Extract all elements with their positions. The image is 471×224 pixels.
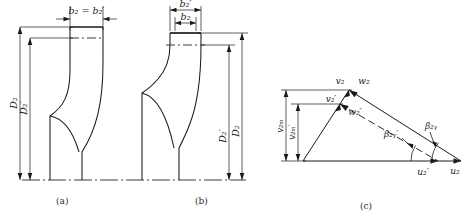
label-b2prime-b: b₂′: [179, 0, 192, 9]
arrowhead-D2p-bottom-a: [28, 173, 33, 180]
panel-c: β₂ᵧ β₂ᵧ′ v₂ₘ v₂ₘ′ v₂ w₂ v₂′ w₂′ u₂′ u₂: [278, 60, 471, 190]
arrowhead-b2-left-a: [64, 17, 71, 22]
caption-b: (b): [195, 196, 208, 206]
label-D2-b: D₂: [230, 125, 241, 138]
arrowhead-b2p-left-b: [170, 8, 177, 13]
arrowhead-D2p-top-b: [227, 45, 232, 52]
front-shroud-a: [82, 27, 103, 180]
label-b2-b: b₂: [181, 11, 191, 22]
arrowhead-D2p-bottom-b: [227, 173, 232, 180]
label-v2prime-c: v₂′: [326, 94, 337, 104]
arrowhead-D2-bottom-b: [240, 173, 245, 180]
front-shroud-b: [179, 33, 201, 180]
arrowhead-D2-top-b: [240, 33, 245, 40]
vane-curve-b: [142, 93, 174, 148]
arrowhead-b2-right-a: [103, 17, 110, 22]
label-b2-equals-b2prime: b₂ = b₂′: [69, 5, 106, 16]
w2-vector-c: [349, 90, 461, 161]
arrowhead-D2p-top-a: [28, 38, 33, 45]
arrowhead-D2-top-a: [18, 27, 23, 34]
arrowhead-v2mp-top-c: [296, 104, 301, 111]
caption-a: (a): [56, 196, 68, 206]
rear-shroud-b: [142, 33, 170, 180]
label-w2-c: w₂: [358, 76, 370, 86]
label-v2mprime-c: v₂ₘ′: [287, 124, 297, 139]
label-beta2y-c: β₂ᵧ: [424, 121, 438, 131]
label-D2prime-b: D₂′: [217, 128, 228, 143]
label-v2m-c: v₂ₘ: [278, 119, 285, 132]
arrowhead-D2-bottom-a: [18, 173, 23, 180]
vane-curve-a: [50, 116, 79, 152]
panel-a: b₂ = b₂′ D₂ D₂′: [0, 0, 140, 200]
arrowhead-v2prime-c: [335, 104, 341, 112]
arrowhead-u2prime-c: [431, 158, 439, 163]
label-v2-c: v₂: [336, 76, 345, 86]
panel-b: b₂′ b₂ D₂ D₂′: [138, 0, 288, 200]
arrowhead-b2p-right-b: [195, 8, 202, 13]
arrowhead-v2m-bottom-c: [284, 154, 289, 161]
arrowhead-v2-c: [344, 90, 350, 98]
arrowhead-v2mp-bottom-c: [296, 154, 301, 161]
label-u2prime-c: u₂′: [417, 167, 428, 177]
caption-c: (c): [360, 201, 372, 211]
arrowhead-b2-right-b: [190, 21, 196, 25]
label-u2-c: u₂: [450, 166, 460, 176]
label-beta2yprime-c: β₂ᵧ′: [383, 129, 398, 139]
label-D2prime-a: D₂′: [18, 100, 29, 115]
arrowhead-w2-c: [349, 90, 358, 97]
arrowhead-v2m-top-c: [284, 90, 289, 97]
beta2yprime-leader-c: [402, 138, 412, 148]
arrowhead-beta2yprime-c: [409, 143, 414, 149]
rear-shroud-a: [50, 27, 70, 180]
label-w2prime-c: w₂′: [348, 107, 361, 117]
